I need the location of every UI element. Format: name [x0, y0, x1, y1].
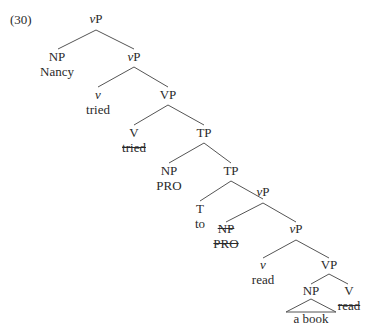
node-T: T [196, 202, 204, 216]
word-pro: PRO [156, 179, 181, 193]
word-a-book: a book [293, 312, 328, 326]
node-NP-object: NP [303, 284, 320, 298]
word-to: to [195, 217, 205, 231]
node-VP-2: VP [321, 258, 338, 272]
node-NP-subject: NP [49, 50, 66, 64]
word-tried: tried [86, 103, 110, 117]
node-v-1: v [95, 88, 101, 102]
word-read-struck: read [338, 299, 360, 313]
word-read: read [252, 273, 274, 287]
word-pro-struck: PRO [213, 237, 238, 251]
node-vP-top: vP [89, 12, 102, 26]
node-V-2: V [344, 284, 353, 298]
node-NP-struck: NP [218, 222, 235, 236]
node-V-1: V [129, 126, 138, 140]
node-vP-4: vP [289, 222, 302, 236]
node-TP-1: TP [196, 126, 211, 140]
node-VP-1: VP [160, 88, 177, 102]
node-TP-2: TP [223, 164, 238, 178]
node-NP-PRO: NP [161, 164, 178, 178]
word-nancy: Nancy [40, 65, 74, 79]
word-tried-struck: tried [122, 141, 146, 155]
node-vP-2: vP [127, 50, 140, 64]
node-vP-3: vP [256, 185, 269, 199]
node-v-2: v [260, 258, 266, 272]
